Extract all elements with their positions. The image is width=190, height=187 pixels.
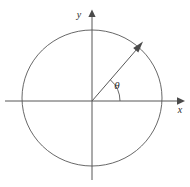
angle-diagram-figure: y x θ bbox=[0, 0, 190, 187]
y-axis-label: y bbox=[76, 9, 82, 20]
unit-circle-angle-diagram: y x θ bbox=[0, 0, 190, 187]
x-axis-label: x bbox=[177, 104, 183, 115]
terminal-ray-arrow-icon bbox=[133, 42, 143, 53]
terminal-ray-line bbox=[92, 49, 137, 101]
y-axis-arrow-icon bbox=[88, 10, 95, 18]
theta-angle-label: θ bbox=[114, 79, 120, 91]
